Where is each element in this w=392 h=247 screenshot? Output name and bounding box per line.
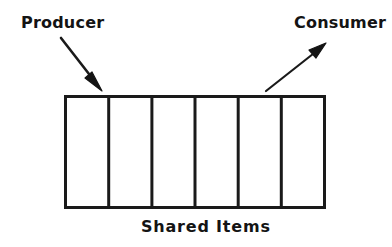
producer-arrow-head: [85, 72, 102, 91]
diagram-canvas: Producer Consumer Shared Items: [0, 0, 392, 247]
producer-label: Producer: [21, 15, 104, 31]
shared-items-caption: Shared Items: [141, 219, 271, 235]
diagram-vector-layer: [0, 0, 392, 247]
consumer-arrow-shaft: [266, 50, 318, 91]
consumer-arrow: [266, 43, 326, 91]
consumer-label: Consumer: [294, 15, 386, 31]
producer-arrow: [61, 38, 102, 91]
